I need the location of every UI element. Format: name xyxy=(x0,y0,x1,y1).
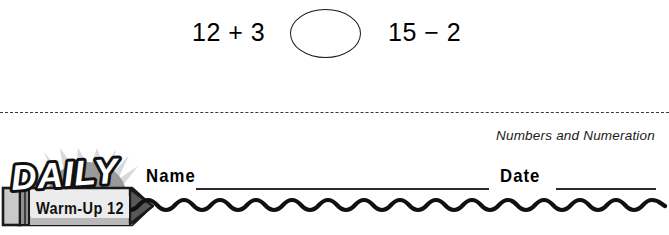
dashed-separator xyxy=(0,112,669,113)
logo-title-text: DAILY xyxy=(10,150,122,197)
worksheet-page: 12 + 3 15 − 2 Numbers and Numeration Nam… xyxy=(0,0,669,235)
problem-row: 12 + 3 15 − 2 xyxy=(0,0,669,70)
logo-title: DAILY xyxy=(10,150,122,197)
math-expression-left: 12 + 3 xyxy=(192,18,265,47)
logo-subtitle: Warm-Up 12 xyxy=(36,200,124,217)
name-input-line[interactable] xyxy=(196,188,489,190)
answer-oval[interactable] xyxy=(290,9,361,58)
date-field-label: Date xyxy=(500,165,540,187)
date-input-line[interactable] xyxy=(556,188,656,190)
wavy-divider-graphic xyxy=(130,196,669,226)
strand-label: Numbers and Numeration xyxy=(496,128,655,143)
wavy-divider xyxy=(130,196,669,226)
math-expression-right: 15 − 2 xyxy=(388,18,461,47)
wave-path xyxy=(130,200,665,210)
